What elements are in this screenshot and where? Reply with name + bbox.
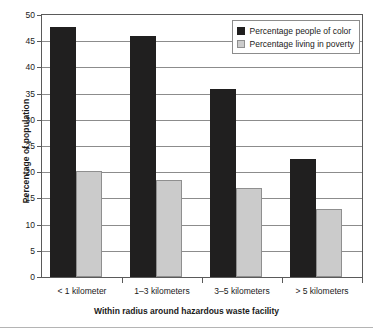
y-tick-label: 40 [5,62,35,72]
x-tick-mark [122,278,123,283]
x-tick-mark [282,278,283,283]
bars-layer [42,15,362,277]
y-tick-label: 5 [5,246,35,256]
legend-label-people-of-color: Percentage people of color [250,26,352,36]
x-axis-title: Within radius around hazardous waste fac… [0,306,373,316]
bar [76,171,102,277]
bar-chart-figure: Percentage of population 051015202530354… [0,0,373,332]
bar [316,209,342,277]
bar [236,188,262,277]
x-tick-label: 1–3 kilometers [122,286,202,296]
x-tick-mark [202,278,203,283]
y-tick-label: 20 [5,167,35,177]
bar [130,36,156,277]
y-tick-label: 30 [5,115,35,125]
legend-swatch-icon-living-in-poverty [237,40,245,48]
bar [210,89,236,277]
y-tick-label: 50 [5,10,35,20]
y-tick-label: 35 [5,89,35,99]
y-tick-label: 0 [5,272,35,282]
legend-swatch-icon-people-of-color [237,27,245,35]
legend-item-living-in-poverty: Percentage living in poverty [237,37,354,50]
plot-area: Percentage people of color Percentage li… [41,14,363,278]
x-tick-label: < 1 kilometer [42,286,122,296]
legend-item-people-of-color: Percentage people of color [237,24,354,37]
x-tick-label: > 5 kilometers [282,286,362,296]
bottom-divider [0,327,373,328]
bar [156,180,182,277]
y-tick-label: 25 [5,141,35,151]
bar [50,27,76,277]
bar [290,159,316,277]
legend: Percentage people of color Percentage li… [232,20,360,54]
x-tick-mark [362,278,363,283]
y-tick-label: 45 [5,36,35,46]
y-tick-label: 10 [5,220,35,230]
legend-label-living-in-poverty: Percentage living in poverty [250,39,354,49]
y-tick-label: 15 [5,193,35,203]
x-tick-label: 3–5 kilometers [202,286,282,296]
